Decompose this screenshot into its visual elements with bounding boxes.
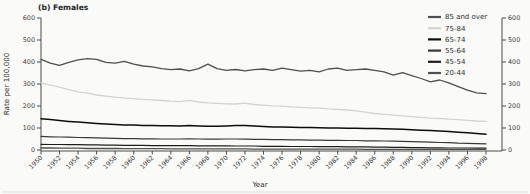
x-tick-label: 1950 bbox=[27, 154, 44, 171]
x-tick-label: 1998 bbox=[472, 154, 489, 171]
x-tick-label: 1972 bbox=[231, 154, 248, 171]
x-tick-label: 1990 bbox=[398, 154, 415, 171]
x-tick-label: 1964 bbox=[157, 154, 174, 171]
legend-item: 55-64 bbox=[428, 47, 466, 55]
legend-item: 20-44 bbox=[428, 69, 466, 77]
legend-item: 75-84 bbox=[428, 25, 466, 33]
legend-item: 85 and over bbox=[428, 13, 487, 21]
x-tick-label: 1968 bbox=[194, 154, 211, 171]
mortality-rate-chart: (b) Females Rate per 100,000 Year 010020… bbox=[0, 0, 530, 194]
y-tick-label: 0 bbox=[31, 146, 35, 154]
legend-item: 45-54 bbox=[428, 58, 466, 66]
series-lines bbox=[41, 59, 486, 150]
y-tick-label: 500 bbox=[23, 36, 35, 44]
legend-label: 85 and over bbox=[445, 13, 487, 21]
x-tick-label: 1978 bbox=[287, 154, 304, 171]
chart-title: (b) Females bbox=[38, 3, 89, 12]
legend-label: 55-64 bbox=[445, 47, 466, 55]
y-tick-label: 200 bbox=[23, 102, 35, 110]
x-tick-label: 1984 bbox=[342, 154, 359, 171]
legend-label: 20-44 bbox=[445, 69, 466, 77]
series-line-45-54 bbox=[41, 144, 486, 148]
x-tick-label: 1966 bbox=[176, 154, 193, 171]
y-tick-label: 200 bbox=[508, 102, 520, 110]
x-tick-label: 1960 bbox=[120, 154, 137, 171]
y-tick-label: 0 bbox=[508, 146, 512, 154]
series-line-65-74 bbox=[41, 119, 486, 134]
y-axis-ticks-left: 0100200300400500600 bbox=[23, 14, 41, 154]
x-tick-label: 1974 bbox=[250, 154, 267, 171]
y-tick-label: 300 bbox=[508, 80, 520, 88]
legend-label: 75-84 bbox=[445, 25, 466, 33]
y-axis-label: Rate per 100,000 bbox=[2, 52, 11, 115]
series-line-55-64 bbox=[41, 136, 486, 143]
legend-item: 65-74 bbox=[428, 36, 466, 44]
y-tick-label: 600 bbox=[508, 14, 520, 22]
y-tick-label: 600 bbox=[23, 14, 35, 22]
y-tick-label: 400 bbox=[508, 58, 520, 66]
series-line-75-84 bbox=[41, 83, 486, 122]
legend-label: 45-54 bbox=[445, 58, 466, 66]
series-line-85-and-over bbox=[41, 59, 486, 94]
x-tick-label: 1970 bbox=[213, 154, 230, 171]
x-tick-label: 1976 bbox=[268, 154, 285, 171]
x-tick-label: 1956 bbox=[83, 154, 100, 171]
x-tick-label: 1962 bbox=[139, 154, 156, 171]
x-tick-label: 1958 bbox=[101, 154, 118, 171]
y-tick-label: 100 bbox=[23, 124, 35, 132]
x-tick-label: 1994 bbox=[435, 154, 452, 171]
y-axis-ticks-right: 0100200300400500600 bbox=[502, 14, 520, 154]
line-chart-canvas: (b) Females Rate per 100,000 Year 010020… bbox=[0, 0, 530, 194]
x-tick-label: 1982 bbox=[324, 154, 341, 171]
legend-label: 65-74 bbox=[445, 36, 466, 44]
x-tick-label: 1952 bbox=[46, 154, 63, 171]
x-axis-ticks: 1950195219541956195819601962196419661968… bbox=[27, 151, 489, 171]
x-tick-label: 1996 bbox=[454, 154, 471, 171]
x-tick-label: 1954 bbox=[64, 154, 81, 171]
y-tick-label: 100 bbox=[508, 124, 520, 132]
y-tick-label: 400 bbox=[23, 58, 35, 66]
y-tick-label: 500 bbox=[508, 36, 520, 44]
legend: 85 and over75-8465-7455-6445-5420-44 bbox=[428, 13, 487, 77]
x-axis-label: Year bbox=[251, 180, 267, 189]
x-tick-label: 1992 bbox=[417, 154, 434, 171]
x-tick-label: 1986 bbox=[361, 154, 378, 171]
x-tick-label: 1988 bbox=[380, 154, 397, 171]
y-tick-label: 300 bbox=[23, 80, 35, 88]
x-tick-label: 1980 bbox=[305, 154, 322, 171]
